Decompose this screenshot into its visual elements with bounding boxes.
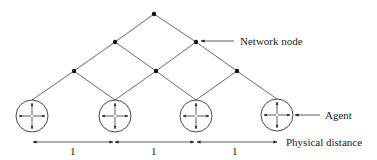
edge [32, 71, 74, 100]
agent-label: Agent [325, 109, 352, 121]
network-nodes [72, 12, 239, 73]
physical-distance-label: Physical distance [286, 136, 362, 148]
agent-1 [16, 100, 48, 132]
edge [74, 71, 115, 100]
network-node [152, 12, 156, 16]
distance-value: 1 [70, 145, 76, 157]
edge [154, 14, 196, 42]
network-node [113, 40, 117, 44]
edge [115, 42, 156, 71]
network-node [72, 69, 76, 73]
distance-value: 1 [232, 145, 238, 157]
distance-value: 1 [151, 145, 157, 157]
network-diagram: Network node Agent 1 1 1 Physical distan… [0, 0, 377, 160]
edge [196, 42, 237, 71]
agent-2 [99, 100, 131, 132]
agents [16, 99, 293, 132]
edge [115, 71, 156, 100]
network-node-label: Network node [240, 35, 303, 47]
edge [156, 42, 196, 71]
edge [237, 71, 277, 99]
network-node [235, 69, 239, 73]
agent-4 [261, 99, 293, 131]
agent-3 [180, 100, 212, 132]
edge [196, 71, 237, 100]
edge [156, 71, 196, 100]
network-node [194, 40, 198, 44]
distance-scale: 1 1 1 [33, 142, 277, 157]
edge [115, 14, 154, 42]
edge [74, 42, 115, 71]
edges [32, 14, 277, 100]
network-node [154, 69, 158, 73]
